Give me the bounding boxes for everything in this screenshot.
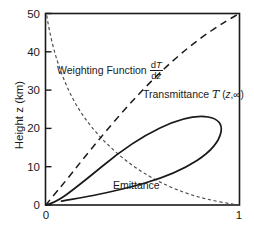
y-axis-title: Height z (km) [13,55,25,175]
chart-figure: 50 40 30 20 10 0 0 1 Height z (km) Weigh… [0,0,254,233]
fraction-numerator: dT [150,60,163,70]
series-transmittance-curve [46,14,240,205]
y-tick-label-50: 50 [18,8,40,20]
x-tick-label-1: 1 [236,209,242,221]
y-axis-ticks [46,14,52,206]
plot-frame [46,14,240,206]
x-tick-label-0: 0 [43,209,49,221]
transmittance-argument: (z,∞) [219,89,243,100]
emittance-label: Emittance [113,179,160,191]
fraction-denominator: dz [150,70,163,81]
transmittance-label-text: Transmittance [143,88,209,100]
series-emittance-curve [46,14,239,206]
transmittance-label: Transmittance T (z,∞) [143,88,244,101]
weighting-function-label-text: Weighting Function [57,64,147,76]
weighting-function-label: Weighting FunctiondTdz [57,61,163,82]
dtdz-fraction: dTdz [150,60,163,81]
y-tick-label-0: 0 [18,199,40,211]
series-weighting-function-curve [46,117,222,205]
